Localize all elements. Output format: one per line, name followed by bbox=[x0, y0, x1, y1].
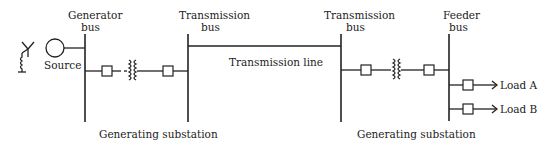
transmission-line-label: Transmission line bbox=[229, 56, 323, 68]
circuit-breaker-square-icon bbox=[463, 80, 473, 90]
generator-circle-icon bbox=[46, 39, 64, 57]
transmission-bus-left-label: Transmission bbox=[179, 9, 250, 21]
circuit-breaker-square-icon bbox=[463, 104, 473, 114]
substation-left-label: Generating substation bbox=[99, 128, 218, 140]
transmission-bus-right-label-2: bus bbox=[346, 21, 365, 33]
feeder-bus-label: Feeder bbox=[443, 9, 481, 21]
transmission-bus-left-label-2: bus bbox=[201, 21, 220, 33]
substation-right-label: Generating substation bbox=[357, 128, 476, 140]
power-system-single-line-diagram: Source Generator bus Transmission bus Tr… bbox=[0, 0, 551, 149]
circuit-breaker-square-icon bbox=[361, 65, 371, 75]
feeder-bus-label-2: bus bbox=[449, 21, 468, 33]
circuit-breaker-square-icon bbox=[163, 66, 173, 76]
circuit-breaker-square-icon bbox=[424, 65, 434, 75]
generator-bus-label-2: bus bbox=[81, 21, 100, 33]
load-b-label: Load B bbox=[500, 103, 538, 115]
transformer-coil-icon bbox=[393, 59, 400, 79]
source-label: Source bbox=[44, 59, 81, 71]
circuit-breaker-square-icon bbox=[102, 66, 112, 76]
transmission-bus-right-label: Transmission bbox=[324, 9, 395, 21]
grounded-wye-icon bbox=[18, 42, 34, 72]
generator-bus-label: Generator bbox=[68, 9, 123, 21]
transformer-coil-icon bbox=[129, 60, 136, 80]
load-a-label: Load A bbox=[500, 79, 538, 91]
